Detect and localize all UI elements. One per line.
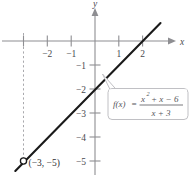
y-tick-label-neg4: −4 (76, 133, 86, 143)
x-tick-label-neg1: −1 (66, 49, 76, 59)
x-axis-label: x (179, 37, 185, 47)
formula-numerator-exponent: 2 (147, 90, 150, 97)
x-tick-label-2: 2 (140, 49, 145, 59)
formula-numerator-rest: + x − 6 (151, 94, 179, 104)
formula-equals-sign: = (131, 99, 137, 109)
removable-discontinuity-open-circle (20, 158, 26, 164)
x-tick-label-1: 1 (116, 49, 121, 59)
y-tick-label-neg3: −3 (76, 109, 86, 119)
x-tick-label-neg2: −2 (42, 49, 52, 59)
y-axis-arrowhead (92, 8, 99, 16)
formula-denominator: x + 3 (150, 108, 171, 118)
y-tick-label-neg1: −1 (76, 61, 86, 71)
coordinate-plane-svg: −2 −1 1 2 −1 −2 −3 −4 −5 x y (−3, −5) f(… (0, 0, 195, 177)
y-tick-label-neg2: −2 (76, 85, 86, 95)
formula-numerator-base: x (140, 94, 145, 104)
x-axis-arrowhead (168, 38, 176, 45)
point-coordinate-label: (−3, −5) (29, 158, 60, 169)
graph-figure: −2 −1 1 2 −1 −2 −3 −4 −5 x y (−3, −5) f(… (0, 0, 195, 177)
y-tick-label-neg5: −5 (76, 157, 86, 167)
formula-function-name: f(x) (113, 99, 126, 109)
y-axis-label: y (92, 0, 98, 9)
